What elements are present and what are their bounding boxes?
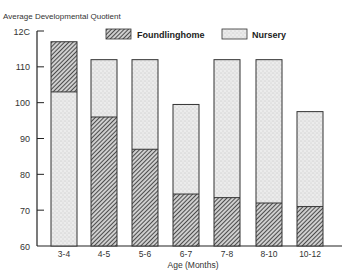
bar-lower-segment — [256, 203, 282, 246]
x-tick-label: 10-12 — [299, 249, 321, 259]
x-tick-label: 7-8 — [221, 249, 234, 259]
legend: Foundlinghome Nursery — [106, 29, 286, 40]
y-tick-label: 80 — [20, 170, 30, 180]
bar-upper-segment — [91, 60, 117, 117]
legend-label-nursery: Nursery — [252, 30, 286, 40]
bar-upper-segment — [297, 112, 323, 207]
bar-upper-segment — [132, 60, 158, 150]
bar-lower-segment — [51, 92, 77, 246]
legend-swatch-nursery — [222, 29, 247, 39]
y-tick-label: 12C — [13, 27, 30, 37]
x-tick-label: 4-5 — [98, 249, 111, 259]
x-tick-label: 8-10 — [260, 249, 277, 259]
x-tick-label: 6-7 — [180, 249, 193, 259]
chart-canvas: Average Developmental Quotient Foundling… — [0, 0, 359, 279]
y-tick-label: 70 — [20, 206, 30, 216]
y-tick-label: 90 — [20, 134, 30, 144]
bars — [51, 42, 323, 246]
x-tick-label: 5-6 — [139, 249, 152, 259]
bar-group-7-8 — [214, 60, 240, 246]
bar-lower-segment — [173, 194, 199, 246]
y-tick-label: 100 — [15, 98, 30, 108]
bar-upper-segment — [256, 60, 282, 203]
bar-upper-segment — [173, 104, 199, 194]
x-ticks: 3-44-55-66-77-88-1010-12 — [58, 249, 321, 259]
legend-swatch-foundlinghome — [106, 29, 131, 39]
x-axis-title: Age (Months) — [167, 260, 218, 270]
x-tick-label: 3-4 — [58, 249, 71, 259]
bar-group-5-6 — [132, 60, 158, 246]
bar-lower-segment — [297, 207, 323, 246]
bar-lower-segment — [132, 149, 158, 246]
bar-group-4-5 — [91, 60, 117, 246]
y-tick-label: 110 — [16, 62, 30, 72]
bar-lower-segment — [214, 198, 240, 246]
legend-label-foundlinghome: Foundlinghome — [137, 30, 205, 40]
bar-upper-segment — [214, 60, 240, 198]
bar-group-8-10 — [256, 60, 282, 246]
bar-group-10-12 — [297, 112, 323, 246]
bar-group-6-7 — [173, 104, 199, 246]
bar-upper-segment — [51, 42, 77, 92]
y-tick-label: 60 — [20, 242, 30, 252]
bar-group-3-4 — [51, 42, 77, 246]
bar-lower-segment — [91, 117, 117, 246]
y-axis-title: Average Developmental Quotient — [3, 12, 121, 21]
y-ticks: 6070809010011012C — [13, 27, 44, 252]
